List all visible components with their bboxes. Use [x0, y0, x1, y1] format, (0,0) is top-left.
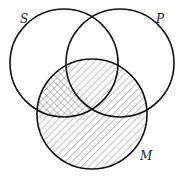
venn-diagram: S P M — [0, 0, 184, 176]
label-s: S — [20, 12, 28, 26]
venn-svg: S P M — [0, 0, 184, 176]
label-p: P — [155, 12, 165, 26]
label-m: M — [139, 149, 153, 163]
